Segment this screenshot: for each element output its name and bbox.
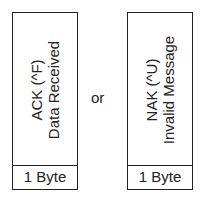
ack-frame-body: ACK (^F) Data Received [13,13,77,166]
nak-title: NAK (^U) [143,15,160,165]
ack-description: Data Received [45,15,62,165]
ack-label: ACK (^F) Data Received [28,15,62,165]
nak-label: NAK (^U) Invalid Message [143,15,177,165]
nak-frame-body: NAK (^U) Invalid Message [128,13,192,166]
nak-frame: NAK (^U) Invalid Message 1 Byte [127,12,193,190]
ack-size: 1 Byte [13,165,77,189]
nak-size: 1 Byte [128,165,192,189]
ack-frame: ACK (^F) Data Received 1 Byte [12,12,78,190]
or-connector: or [91,89,104,106]
nak-description: Invalid Message [160,15,177,165]
ack-title: ACK (^F) [28,15,45,165]
